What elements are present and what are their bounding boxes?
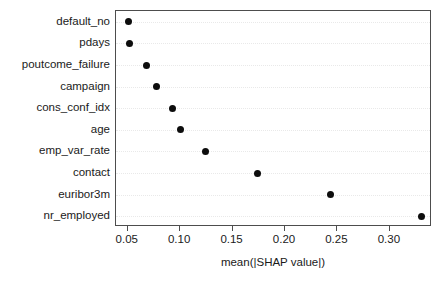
gridline	[116, 22, 430, 23]
data-point	[254, 170, 261, 177]
x-axis-tick	[232, 226, 233, 231]
y-axis-label-campaign: campaign	[60, 80, 110, 92]
plot-area	[116, 11, 430, 225]
x-axis-title: mean(|SHAP value|)	[115, 255, 431, 269]
data-point	[327, 191, 334, 198]
data-point	[125, 18, 132, 25]
plot-frame	[115, 10, 431, 226]
y-axis-label-cons-conf-idx: cons_conf_idx	[36, 101, 110, 113]
x-axis-tick-label: 0.05	[116, 233, 138, 246]
gridline	[116, 43, 430, 44]
y-axis-label-default-no: default_no	[56, 15, 110, 27]
x-axis-tick-label: 0.25	[325, 233, 347, 246]
data-point	[177, 126, 184, 133]
x-axis-tick-label: 0.15	[220, 233, 242, 246]
x-axis-tick-label: 0.20	[273, 233, 295, 246]
gridline	[116, 195, 430, 196]
data-point	[418, 213, 425, 220]
x-axis-tick-label: 0.10	[168, 233, 190, 246]
gridline	[116, 108, 430, 109]
gridline	[116, 130, 430, 131]
x-axis-tick	[179, 226, 180, 231]
x-axis-tick-label: 0.30	[378, 233, 400, 246]
y-axis-label-contact: contact	[73, 166, 110, 178]
gridline	[116, 216, 430, 217]
gridline	[116, 87, 430, 88]
y-axis-category-labels: default_nopdayspoutcome_failurecampaignc…	[0, 10, 110, 226]
y-axis-label-poutcome-failure: poutcome_failure	[22, 58, 110, 70]
y-axis-label-age: age	[91, 123, 110, 135]
y-axis-label-euribor3m: euribor3m	[58, 188, 110, 200]
data-point	[153, 83, 160, 90]
y-axis-label-pdays: pdays	[79, 36, 110, 48]
x-axis-tick	[389, 226, 390, 231]
data-point	[126, 40, 133, 47]
gridline	[116, 151, 430, 152]
y-axis-label-nr-employed: nr_employed	[44, 209, 110, 221]
x-axis-tick	[127, 226, 128, 231]
data-point	[169, 105, 176, 112]
shap-feature-importance-chart: default_nopdayspoutcome_failurecampaignc…	[0, 0, 448, 284]
data-point	[143, 62, 150, 69]
gridline	[116, 65, 430, 66]
data-point	[202, 148, 209, 155]
y-axis-label-emp-var-rate: emp_var_rate	[39, 144, 110, 156]
x-axis-tick	[336, 226, 337, 231]
gridline	[116, 173, 430, 174]
x-axis-tick	[284, 226, 285, 231]
